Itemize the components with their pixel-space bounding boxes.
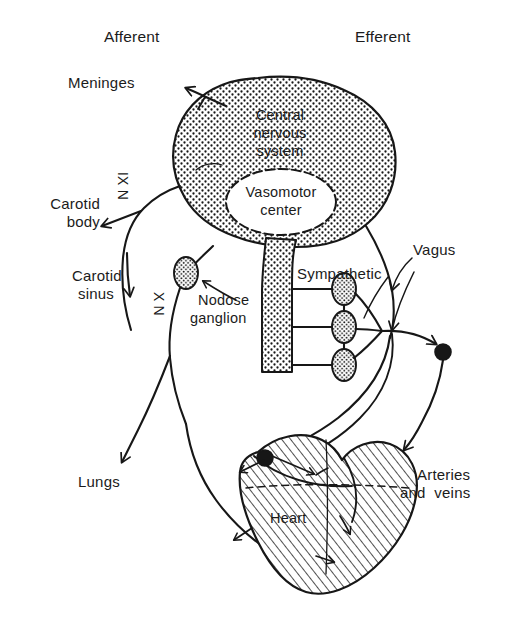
label-cns-line3: system — [218, 143, 342, 160]
label-meninges: Meninges — [68, 74, 135, 91]
label-arteries-veins-line2: and veins — [400, 484, 470, 501]
sympathetic-ganglion-3 — [332, 349, 356, 381]
label-cns-line1: Central — [218, 107, 342, 124]
label-vasomotor-center-line1: Vasomotor — [222, 184, 340, 201]
label-carotid-sinus-line2: sinus — [78, 285, 114, 302]
label-arteries-veins-line1: Arteries — [417, 466, 470, 483]
carotid-sinus-branch — [127, 253, 130, 296]
nerve-x-trunk-lower — [169, 288, 186, 424]
label-nodose-ganglion-line2: ganglion — [190, 310, 246, 327]
nodose-ganglion — [174, 257, 198, 289]
vessel-ganglion-knob — [435, 344, 451, 360]
label-lungs: Lungs — [78, 473, 120, 490]
sympathetic-ganglion-2 — [332, 311, 356, 343]
anatomy-drawing — [0, 0, 510, 619]
label-nerve-ix: IX N — [114, 172, 130, 216]
header-efferent: Efferent — [355, 28, 411, 46]
postganglionic-from-g1 — [355, 293, 382, 331]
label-carotid-sinus-line1: Carotid — [72, 267, 122, 284]
cardiac-ganglion-knob — [257, 450, 273, 466]
spinal-cord — [262, 238, 296, 372]
diagram-figure: Afferent Efferent Meninges Carotid body … — [0, 0, 510, 619]
label-carotid-body-line1: Carotid — [16, 195, 100, 212]
label-carotid-body-line2: body — [16, 213, 100, 230]
lungs-branch — [122, 356, 170, 462]
header-afferent: Afferent — [104, 28, 160, 46]
postganglionic-from-g3 — [354, 331, 382, 358]
vagus-pointer — [392, 258, 412, 290]
label-vasomotor-center-line2: center — [222, 202, 340, 219]
sympathetic-pointer — [364, 277, 388, 318]
label-cns-line2: nervous — [218, 125, 342, 142]
label-heart: Heart — [270, 510, 306, 527]
vessels-terminal-branch — [404, 360, 443, 450]
label-nodose-ganglion-line1: Nodose — [198, 292, 249, 309]
label-nerve-x: X N — [150, 292, 166, 332]
label-sympathetic: Sympathetic — [297, 265, 382, 282]
label-vagus: Vagus — [413, 241, 455, 258]
postganglionic-from-g2 — [356, 329, 382, 331]
